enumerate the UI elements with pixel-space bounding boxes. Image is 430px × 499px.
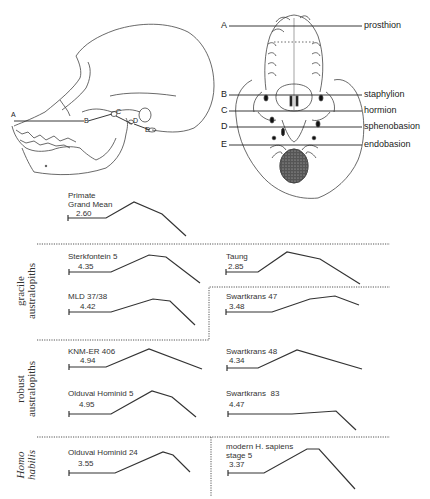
panel-value-swartkrans-47: 3.48	[229, 302, 245, 311]
panel-value-swartkrans-83: 4.47	[229, 400, 245, 409]
basal-landmark-letter-d: D	[221, 121, 228, 131]
panel-value-mld-37-38: 4.42	[80, 302, 96, 311]
panel-label-primate: Primate	[68, 191, 96, 200]
basal-landmark-name-hormion: hormion	[364, 105, 397, 115]
basal-landmark-name-sphenobasion: sphenobasion	[364, 121, 420, 131]
profile-lines	[68, 202, 362, 489]
panel-label-sterkfontein-5: Sterkfontein 5	[68, 252, 117, 261]
panel-value-olduvai-hominid-5: 4.95	[79, 400, 95, 409]
group-label-robust: robust australopiths	[15, 349, 37, 429]
panel-value-modern-h-sapiens: 3.37	[229, 460, 245, 469]
basal-landmark-name-staphylion: staphylion	[364, 89, 405, 99]
lateral-landmark-letter-d: D	[133, 117, 138, 124]
panel-label-stage-5: stage 5	[226, 451, 252, 460]
panel-label-swartkrans-83: Swartkrans 83	[226, 389, 279, 398]
profile-swartkrans-83	[228, 411, 356, 430]
lateral-skull-drawing	[12, 24, 214, 174]
panel-value-primate-grand-mean: 2.60	[76, 209, 92, 218]
basal-landmark-name-prosthion: prosthion	[364, 20, 401, 30]
lateral-landmark-letter-b: B	[84, 117, 89, 124]
lateral-landmark-letter-e: E	[145, 126, 150, 133]
basal-landmark-letter-c: C	[221, 105, 228, 115]
group-label-gracile: gracile australopiths	[15, 251, 37, 331]
figure-canvas	[0, 0, 430, 499]
basal-landmark-name-endobasion: endobasion	[364, 139, 411, 149]
basal-landmark-lines	[229, 26, 362, 145]
basal-landmark-letter-b: B	[221, 89, 227, 99]
panel-value-olduvai-hominid-24: 3.55	[78, 459, 94, 468]
lateral-landmark-letter-c: C	[116, 108, 121, 115]
panel-value-sterkfontein-5: 4.35	[78, 262, 94, 271]
basal-landmark-letter-a: A	[221, 20, 227, 30]
panel-label-olduvai-hominid-5: Olduvai Hominid 5	[68, 389, 133, 398]
lateral-landmark-letter-a: A	[11, 111, 16, 118]
panel-value-knm-er-406: 4.94	[80, 356, 96, 365]
panel-label-swartkrans-48: Swartkrans 48	[226, 347, 277, 356]
panel-label-knm-er-406: KNM-ER 406	[68, 347, 115, 356]
group-label-homo-habilis: Homo habilis	[15, 444, 37, 486]
panel-label-mld-37-38: MLD 37/38	[68, 292, 107, 301]
panel-label-taung: Taung	[226, 252, 248, 261]
panel-value-swartkrans-48: 4.34	[229, 356, 245, 365]
panel-label-modern-h-sapiens: modern H. sapiens	[226, 442, 293, 451]
panel-label-grand-mean: Grand Mean	[68, 200, 112, 209]
panel-label-swartkrans-47: Swartkrans 47	[226, 292, 277, 301]
basal-skull-drawing	[236, 15, 364, 198]
basal-landmark-letter-e: E	[221, 139, 227, 149]
panel-label-olduvai-hominid-24: Olduvai Hominid 24	[68, 448, 138, 457]
panel-value-taung: 2.85	[228, 262, 244, 271]
